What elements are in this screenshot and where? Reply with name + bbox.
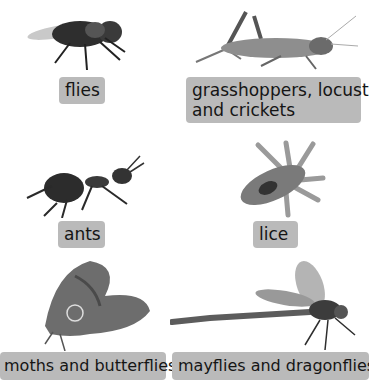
label-lice: lice — [253, 221, 298, 248]
label-ants: ants — [58, 221, 105, 248]
dragonfly-icon — [170, 260, 369, 352]
label-moths: moths and butterflies — [0, 352, 166, 380]
label-grasshoppers-line2: and crickets — [192, 100, 355, 120]
label-grasshoppers-line1: grasshoppers, locusts — [192, 80, 355, 100]
ant-icon — [22, 148, 147, 218]
label-grasshoppers: grasshoppers, locusts and crickets — [186, 77, 361, 123]
label-flies: flies — [59, 77, 105, 104]
grasshopper-icon — [186, 4, 361, 72]
moth-icon — [25, 256, 155, 351]
louse-icon — [228, 140, 328, 220]
fly-icon — [25, 8, 145, 73]
label-dragonflies: mayflies and dragonflies — [172, 352, 369, 380]
